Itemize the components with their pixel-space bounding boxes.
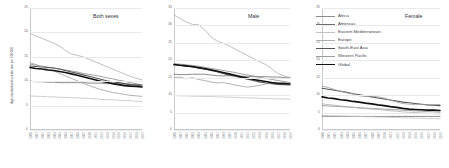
gridline [30,81,142,82]
x-tick-label: 2007 [71,132,74,139]
plot-area-both-sexes: 0510152025 [30,8,142,130]
x-tick-label: 2001 [328,132,331,139]
x-tick-label: 2016 [421,132,424,139]
gridline [174,60,290,61]
y-tick-label: 25 [168,41,172,44]
panel-both-sexes: Age-standardized suicide rate per 100,00… [0,0,150,168]
legend-label: South-East Asia [338,46,368,50]
x-tick-label: 2001 [36,132,39,139]
figure-suicide-rate-by-region: Age-standardized suicide rate per 100,00… [0,0,449,168]
legend-item-south-east-asia[interactable]: South-East Asia [316,44,431,52]
legend-label: Eastern Mediterranean [338,30,381,34]
x-tick-label: 2017 [130,132,133,139]
y-tick-label: 0 [170,128,172,131]
x-tick-label: 2014 [409,132,412,139]
x-tick-label: 2008 [223,132,226,139]
x-tick-label: 2013 [403,132,406,139]
x-tick-label: 2005 [59,132,62,139]
panel-female: Female 05101520253035 200020012002200320… [298,0,449,168]
legend-item-africa[interactable]: Africa [316,12,431,20]
y-axis-title: Age-standardized suicide rate per 100,00… [11,25,14,125]
x-tick-label: 2014 [259,132,262,139]
x-tick-label: 2010 [89,132,92,139]
x-tick-label: 2013 [253,132,256,139]
x-tick-label: 2002 [186,132,189,139]
gridline [30,32,142,33]
x-tick-label: 2001 [180,132,183,139]
x-tick-label: 2019 [142,132,145,139]
series-line-eastern-mediterranean [30,96,142,102]
x-tick-label: 2018 [434,132,437,139]
legend-item-americas[interactable]: Americas [316,20,431,28]
x-tick-label: 2002 [334,132,337,139]
panel-male: Male 05101520253035 20002001200220032004… [150,0,298,168]
x-tick-label: 2004 [54,132,57,139]
y-tick-label: 0 [318,128,320,131]
gridline [322,8,440,9]
x-tick-label: 2014 [113,132,116,139]
gridline [174,43,290,44]
legend-label: Western Pacific [338,54,367,58]
legend: AfricaAmericasEastern MediterraneanEurop… [316,12,431,69]
gridline [322,78,440,79]
y-tick-label: 0 [26,128,28,131]
legend-label: Americas [338,22,355,26]
legend-line-swatch [316,16,335,17]
series-line-eastern-mediterranean [322,115,440,118]
x-tick-label: 2006 [359,132,362,139]
x-tick-label: 2008 [77,132,80,139]
x-tick-label: 2000 [174,132,177,139]
x-tick-label: 2005 [353,132,356,139]
y-tick-label: 15 [168,76,172,79]
y-tick-label: 35 [316,6,320,9]
x-tick-label: 2012 [247,132,250,139]
x-tick-label: 2003 [48,132,51,139]
x-tick-group-female: 2000200120022003200420052006200720082009… [322,131,440,167]
gridline [30,106,142,107]
x-tick-label: 2000 [322,132,325,139]
x-tick-label: 2000 [30,132,33,139]
x-tick-label: 2003 [341,132,344,139]
y-tick-label: 30 [168,24,172,27]
gridline [174,25,290,26]
legend-line-swatch [316,64,335,65]
legend-line-swatch [316,40,335,41]
y-tick-label: 20 [168,59,172,62]
legend-item-global[interactable]: Global [316,61,431,69]
legend-line-swatch [316,32,335,33]
legend-item-western-pacific[interactable]: Western Pacific [316,52,431,60]
x-tick-label: 2009 [83,132,86,139]
gridline [322,95,440,96]
legend-line-swatch [316,24,335,25]
x-tick-label: 2011 [390,132,393,139]
legend-label: Europe [338,38,352,42]
x-tick-label: 2016 [272,132,275,139]
x-tick-label: 2003 [192,132,195,139]
gridline [174,95,290,96]
x-tick-group-both-sexes: 2000200120022003200420052006200720082009… [30,131,142,167]
legend-item-eastern-mediterranean[interactable]: Eastern Mediterranean [316,28,431,36]
x-tick-group-male: 2000200120022003200420052006200720082009… [174,131,290,167]
plot-area-male: 05101520253035 [174,8,290,130]
x-tick-label: 2018 [136,132,139,139]
series-lines-both-sexes [30,8,142,130]
x-tick-label: 2009 [229,132,232,139]
legend-line-swatch [316,56,335,57]
gridline [174,78,290,79]
x-tick-label: 2010 [384,132,387,139]
legend-label: Global [338,63,350,67]
y-tick-label: 35 [168,6,172,9]
x-tick-label: 2004 [198,132,201,139]
x-tick-label: 2010 [235,132,238,139]
x-tick-label: 2004 [347,132,350,139]
y-tick-label: 5 [318,111,320,114]
x-tick-label: 2011 [95,132,98,139]
y-tick-label: 10 [168,93,172,96]
legend-item-europe[interactable]: Europe [316,36,431,44]
gridline [30,8,142,9]
x-tick-label: 2016 [124,132,127,139]
series-line-africa [322,106,440,113]
y-tick-label: 15 [24,55,28,58]
x-tick-label: 2007 [365,132,368,139]
x-tick-label: 2017 [428,132,431,139]
